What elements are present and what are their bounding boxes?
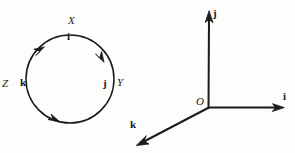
axis-line-k xyxy=(143,108,208,142)
figure-canvas: X i Z k j Y j i k O xyxy=(0,0,295,153)
axis-frame-group xyxy=(137,11,285,146)
axis-label-j: j xyxy=(213,8,217,19)
cycle-label-k: k xyxy=(20,77,26,88)
cycle-arrowhead-upper-right xyxy=(96,52,105,63)
axis-label-origin: O xyxy=(196,96,204,107)
axis-label-i: i xyxy=(283,91,286,102)
cycle-label-y: Y xyxy=(117,77,123,88)
cycle-label-j: j xyxy=(103,78,107,89)
cycle-label-z: Z xyxy=(2,78,8,89)
figure-vector-layer xyxy=(0,0,295,153)
axis-line-j xyxy=(209,18,210,108)
cycle-circle-group xyxy=(26,35,114,123)
cycle-label-x: X xyxy=(68,15,75,26)
axis-label-k: k xyxy=(130,119,136,130)
cycle-label-i: i xyxy=(67,31,70,42)
